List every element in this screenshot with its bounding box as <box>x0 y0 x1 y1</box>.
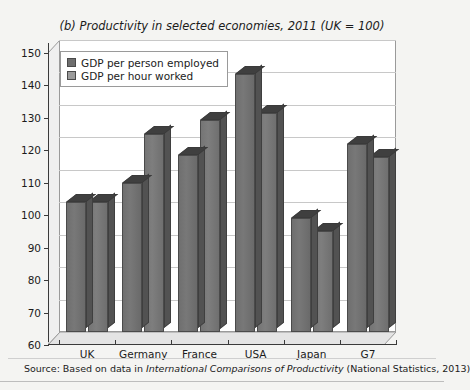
legend-label: GDP per hour worked <box>81 70 193 82</box>
bar-front-face <box>66 202 86 332</box>
bar <box>235 74 255 332</box>
x-axis-line <box>48 344 396 345</box>
legend-item-gdp-per-person-employed: GDP per person employed <box>67 56 219 69</box>
chart-title: (b) Productivity in selected economies, … <box>0 19 444 33</box>
y-tick-label: 150 <box>21 47 41 59</box>
bar-side-face <box>389 147 396 328</box>
legend-item-gdp-per-hour-worked: GDP per hour worked <box>67 69 219 82</box>
y-tick-label: 130 <box>21 112 41 124</box>
y-tick-mark <box>44 183 49 184</box>
bar <box>66 202 86 332</box>
y-tick-mark <box>44 215 49 216</box>
bar-side-face <box>255 65 262 328</box>
source-divider <box>8 358 436 359</box>
y-tick-label: 90 <box>28 242 41 254</box>
bar-group <box>228 40 284 332</box>
y-tick-label: 60 <box>28 339 41 351</box>
legend-swatch-icon <box>67 71 76 80</box>
bar-side-face <box>367 134 374 328</box>
bar <box>291 218 311 332</box>
bar-group <box>284 40 340 332</box>
bar-front-face <box>235 74 255 332</box>
y-tick-mark <box>44 280 49 281</box>
source-note: Source: Based on data in International C… <box>24 363 470 374</box>
bar-side-face <box>86 193 93 328</box>
x-tick-mark <box>396 340 397 345</box>
chart-legend: GDP per person employed GDP per hour wor… <box>60 51 228 87</box>
y-tick-label: 80 <box>28 274 41 286</box>
bar-front-face <box>122 183 142 332</box>
bar-side-face <box>333 222 340 328</box>
y-tick-mark <box>44 85 49 86</box>
bar <box>347 144 367 332</box>
bar-side-face <box>311 209 318 328</box>
bar-group <box>340 40 396 332</box>
y-tick-label: 120 <box>21 144 41 156</box>
y-tick-label: 100 <box>21 209 41 221</box>
source-suffix: (National Statistics, 2013) <box>344 363 470 374</box>
bar-front-face <box>178 155 198 332</box>
bar-side-face <box>164 125 171 328</box>
y-tick-label: 70 <box>28 307 41 319</box>
bar-front-face <box>347 144 367 332</box>
legend-label: GDP per person employed <box>81 57 219 69</box>
bar-side-face <box>277 104 284 328</box>
y-tick-mark <box>44 118 49 119</box>
y-tick-label: 140 <box>21 79 41 91</box>
y-tick-mark <box>44 313 49 314</box>
bar <box>122 183 142 332</box>
y-tick-mark <box>44 53 49 54</box>
page-divider <box>0 381 444 382</box>
y-tick-label: 110 <box>21 177 41 189</box>
page-bleed-through <box>0 0 444 16</box>
bar-front-face <box>291 218 311 332</box>
bar-side-face <box>142 173 149 328</box>
bar-side-face <box>108 193 115 328</box>
source-prefix: Source: Based on data in <box>24 363 146 374</box>
source-title: International Comparisons of Productivit… <box>146 363 344 374</box>
y-tick-mark <box>44 345 49 346</box>
bar-side-face <box>198 146 205 328</box>
bar-side-face <box>220 110 227 328</box>
y-tick-mark <box>44 248 49 249</box>
bar <box>178 155 198 332</box>
legend-swatch-icon <box>67 58 76 67</box>
y-axis-line <box>48 43 49 342</box>
y-tick-mark <box>44 150 49 151</box>
